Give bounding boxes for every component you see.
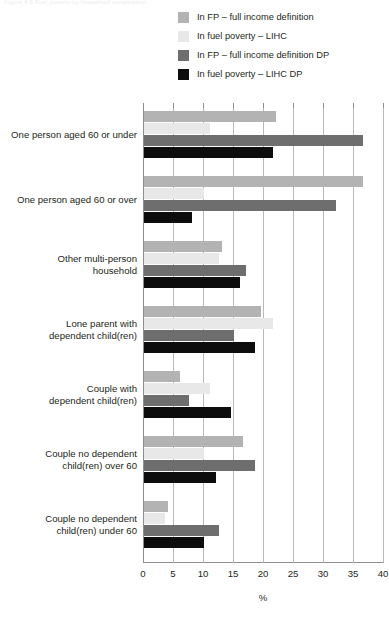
category-label-4: Couple withdependent child(ren) [4,383,137,407]
category-label-line: child(ren) under 60 [4,525,137,537]
x-axis-title: % [143,592,383,603]
bar [144,371,180,382]
category-label-2: Other multi-personhousehold [4,253,137,277]
category-label-line: Couple no dependent [4,513,137,525]
bar-group-3 [144,306,383,354]
x-tick-mark-40 [383,103,384,108]
x-tick-mark-35 [353,103,354,108]
bar-group-4 [144,371,383,419]
legend-label: In FP – full income definition [197,12,314,23]
category-label-1: One person aged 60 or over [4,194,137,206]
x-tick-label-25: 25 [276,568,310,579]
category-label-line: household [4,265,137,277]
legend-label: In FP – full income definition DP [197,50,329,61]
bar [144,525,219,536]
bar [144,460,255,471]
category-label-line: Couple with [4,383,137,395]
x-tick-label-10: 10 [186,568,220,579]
bar [144,277,240,288]
x-tick-mark-5 [173,103,174,108]
bar [144,436,243,447]
category-label-line: child(ren) over 60 [4,460,137,472]
legend-label: In fuel poverty – LIHC DP [197,69,302,80]
x-tick-label-30: 30 [306,568,340,579]
bar [144,147,273,158]
bar [144,383,210,394]
category-label-line: One person aged 60 or under [4,129,137,141]
category-label-line: dependent child(ren) [4,330,137,342]
bar [144,513,165,524]
bar [144,472,216,483]
bar [144,135,363,146]
x-tick-label-40: 40 [366,568,389,579]
legend-item-3[interactable]: In fuel poverty – LIHC DP [178,65,383,84]
bar [144,407,231,418]
category-label-line: Other multi-person [4,253,137,265]
legend-label: In fuel poverty – LIHC [197,31,287,42]
x-tick-mark-25 [293,103,294,108]
category-label-line: Lone parent with [4,318,137,330]
legend-swatch-icon [178,12,189,23]
category-label-line: Couple no dependent [4,448,137,460]
x-tick-label-0: 0 [126,568,160,579]
bar [144,176,363,187]
legend-swatch-icon [178,69,189,80]
category-label-3: Lone parent withdependent child(ren) [4,318,137,342]
category-label-line: One person aged 60 or over [4,194,137,206]
bar [144,306,261,317]
x-tick-mark-15 [233,103,234,108]
plot-area [143,108,383,563]
x-tick-label-5: 5 [156,568,190,579]
chart-legend: In FP – full income definitionIn fuel po… [178,8,383,84]
fuel-poverty-bar-chart: Figure 4.6 Fuel poverty by household com… [0,0,389,619]
x-tick-label-15: 15 [216,568,250,579]
legend-item-2[interactable]: In FP – full income definition DP [178,46,383,65]
bar-group-0 [144,111,383,159]
x-tick-label-20: 20 [246,568,280,579]
legend-item-1[interactable]: In fuel poverty – LIHC [178,27,383,46]
x-tick-mark-20 [263,103,264,108]
legend-swatch-icon [178,31,189,42]
bar [144,200,336,211]
bar-group-6 [144,501,383,549]
bar-group-1 [144,176,383,224]
legend-item-0[interactable]: In FP – full income definition [178,8,383,27]
bar [144,330,234,341]
bar [144,212,192,223]
legend-swatch-icon [178,50,189,61]
category-label-line: dependent child(ren) [4,395,137,407]
bar [144,318,273,329]
x-tick-mark-30 [323,103,324,108]
bar [144,537,204,548]
bar-group-5 [144,436,383,484]
gridline-40 [383,108,384,563]
bar [144,448,204,459]
category-label-5: Couple no dependentchild(ren) over 60 [4,448,137,472]
category-label-6: Couple no dependentchild(ren) under 60 [4,513,137,537]
x-tick-mark-0 [143,103,144,108]
bar-group-2 [144,241,383,289]
bar [144,111,276,122]
bar [144,342,255,353]
bar [144,501,168,512]
x-tick-label-35: 35 [336,568,370,579]
bar [144,395,189,406]
cut-off-header-text: Figure 4.6 Fuel poverty by household com… [4,0,146,6]
bar [144,188,204,199]
x-tick-mark-10 [203,103,204,108]
bar [144,123,210,134]
bar [144,253,219,264]
bar [144,265,246,276]
bar [144,241,222,252]
category-label-0: One person aged 60 or under [4,129,137,141]
